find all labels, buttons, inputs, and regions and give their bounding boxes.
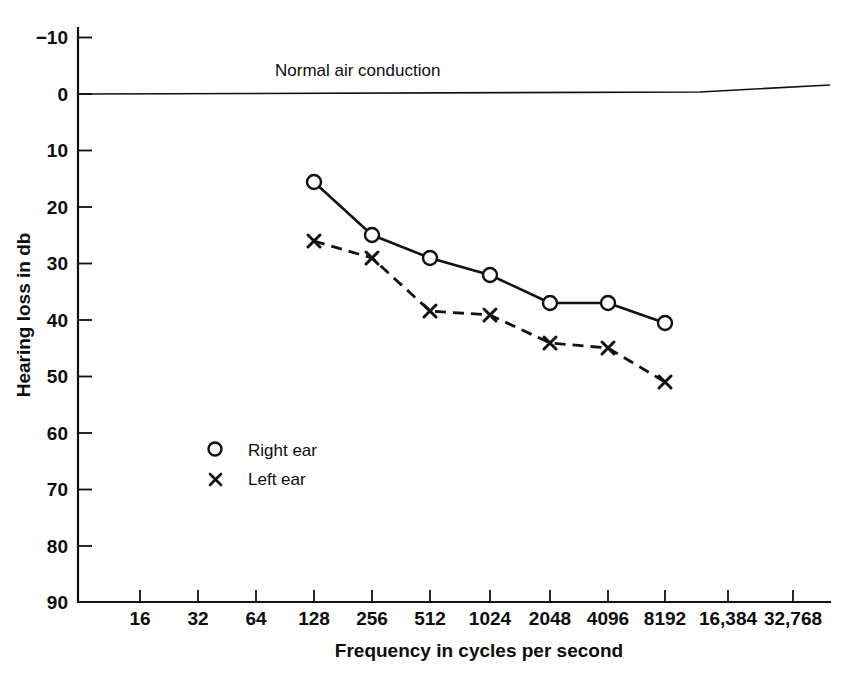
y-tick-label-minus10: −10: [36, 27, 68, 48]
y-tick-label-10: 10: [47, 140, 68, 161]
legend-label-left-ear: Left ear: [248, 470, 306, 489]
data-point-right-4096: [601, 296, 615, 310]
y-tick-label-0: 0: [57, 84, 68, 105]
data-point-right-512: [423, 251, 437, 265]
legend-x-icon: [210, 474, 221, 485]
y-tick-label-60: 60: [47, 423, 68, 444]
series-left-ear: [308, 235, 671, 388]
x-tick-label-1024: 1024: [469, 608, 512, 629]
y-tick-label-40: 40: [47, 310, 68, 331]
x-tick-label-4096: 4096: [587, 608, 629, 629]
x-tick-label-32: 32: [187, 608, 208, 629]
x-axis-tick-labels: 16 32 64 128 256 512 1024 2048 4096 8192…: [129, 608, 822, 629]
x-axis-title: Frequency in cycles per second: [335, 640, 623, 661]
x-tick-label-512: 512: [414, 608, 446, 629]
series-left-ear-markers: [308, 235, 671, 388]
y-axis-title: Hearing loss in db: [13, 233, 34, 398]
x-tick-label-128: 128: [298, 608, 330, 629]
legend-item-right-ear: Right ear: [209, 441, 318, 460]
x-tick-label-8192: 8192: [644, 608, 686, 629]
x-tick-label-32768: 32,768: [764, 608, 822, 629]
x-tick-label-2048: 2048: [529, 608, 571, 629]
data-point-right-8192: [658, 316, 672, 330]
legend-label-right-ear: Right ear: [248, 441, 317, 460]
y-tick-label-20: 20: [47, 197, 68, 218]
data-point-left-4096: [602, 342, 614, 354]
legend-circle-icon: [209, 443, 222, 456]
x-axis-ticks: [140, 590, 793, 602]
data-point-right-2048: [543, 296, 557, 310]
y-axis-ticks: [78, 38, 92, 547]
y-tick-label-90: 90: [47, 592, 68, 613]
audiogram-chart: −10 0 10 20 30 40 50 60 70 80 90: [0, 0, 845, 674]
x-tick-label-16: 16: [129, 608, 150, 629]
axis-frame: [78, 28, 830, 602]
series-right-ear: [307, 175, 672, 330]
y-tick-label-50: 50: [47, 366, 68, 387]
data-point-left-1024: [484, 309, 496, 321]
x-tick-label-64: 64: [245, 608, 267, 629]
data-point-left-512: [424, 305, 436, 317]
chart-legend: Right ear Left ear: [209, 441, 318, 489]
normal-air-conduction-line: [79, 85, 830, 94]
data-point-left-8192: [659, 376, 671, 388]
y-tick-label-30: 30: [47, 253, 68, 274]
y-axis-tick-labels: −10 0 10 20 30 40 50 60 70 80 90: [36, 27, 68, 613]
normal-air-conduction-label: Normal air conduction: [275, 61, 440, 80]
legend-item-left-ear: Left ear: [210, 470, 306, 489]
data-point-right-128: [307, 175, 321, 189]
data-point-right-256: [365, 228, 379, 242]
x-tick-label-16384: 16,384: [699, 608, 758, 629]
data-point-right-1024: [483, 268, 497, 282]
data-point-left-2048: [544, 337, 556, 349]
x-tick-label-256: 256: [356, 608, 388, 629]
y-tick-label-70: 70: [47, 479, 68, 500]
audiogram-figure: −10 0 10 20 30 40 50 60 70 80 90: [0, 0, 845, 674]
y-tick-label-80: 80: [47, 536, 68, 557]
